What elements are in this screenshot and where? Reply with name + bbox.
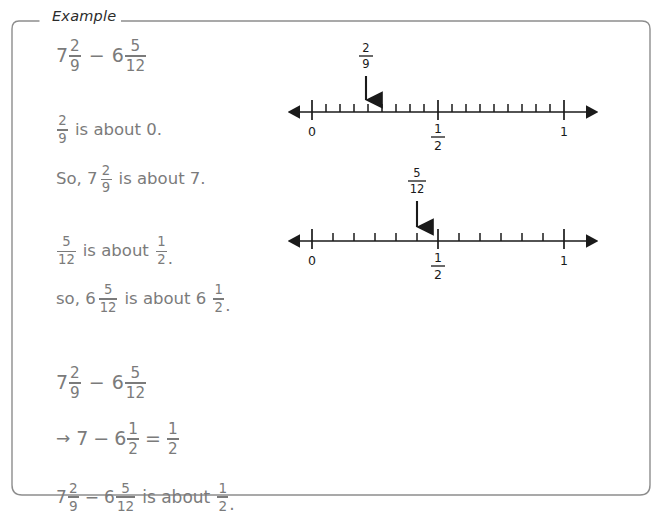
step-1-line-1: 2 9 is about 0. — [56, 114, 316, 146]
tick-label-one-half: 1 2 — [431, 121, 445, 153]
pointer-label-two-ninths: 2 9 — [359, 41, 373, 71]
numerator: 2 — [69, 365, 81, 381]
pointer-denominator: 12 — [410, 182, 425, 196]
fraction: 2 9 — [69, 365, 81, 401]
step-1-line-2-lead: So, 7 — [56, 171, 98, 188]
major-ticks — [312, 100, 564, 120]
solution-column: 7 2 9 − 6 5 12 2 9 is about 0. — [56, 38, 316, 513]
step-1-line-1-text: is about 0. — [75, 122, 162, 139]
denominator: 12 — [99, 301, 118, 315]
step-2-line-2-period: . — [225, 298, 230, 315]
whole: 6 — [112, 373, 124, 392]
step-1-line-2-text: is about 7. — [119, 171, 206, 188]
numerator: 5 — [130, 365, 142, 381]
step-3-line-1: 7 2 9 − 6 5 12 — [56, 365, 316, 401]
denominator: 12 — [125, 385, 146, 401]
denominator: 12 — [125, 58, 146, 74]
denominator: 2 — [217, 499, 228, 513]
whole: 6 — [114, 429, 126, 448]
step-3-line-2-whole-a: 7 — [76, 429, 88, 448]
problem-operator: − — [82, 46, 112, 65]
implies-arrow-icon: → — [56, 430, 76, 447]
step-2-line-2-result-fraction: 1 2 — [213, 283, 224, 315]
step-2-line-1-period: . — [168, 251, 173, 268]
step-1: 2 9 is about 0. So, 7 2 9 is about 7. — [56, 114, 316, 195]
step-3-line-3: 7 2 9 − 6 5 12 is about 1 2 — [56, 481, 316, 513]
fraction: 5 12 — [125, 365, 146, 401]
step-2-line-2-lead: so, 6 — [56, 291, 96, 308]
step-3-line-3-mixed-b: 6 5 12 — [104, 481, 136, 513]
whole: 7 — [56, 373, 68, 392]
denominator: 9 — [68, 499, 79, 513]
step-2-line-2: so, 6 5 12 is about 6 1 2 . — [56, 283, 316, 315]
numerator: 5 — [120, 481, 131, 495]
tick-label-numerator: 1 — [434, 121, 442, 136]
step-3: 7 2 9 − 6 5 12 → 7 − 6 — [56, 365, 316, 513]
denominator: 9 — [101, 181, 111, 195]
step-1-fraction: 2 9 — [57, 114, 68, 146]
denominator: 2 — [156, 253, 166, 267]
numerator: 1 — [156, 235, 166, 249]
problem-whole-b: 6 — [112, 46, 124, 65]
step-3-line-2-operator: − — [88, 429, 114, 448]
step-3-mixed-a: 7 2 9 — [56, 365, 82, 401]
pointer-label-five-twelfths: 5 12 — [408, 166, 426, 196]
tick-label-1: 1 — [560, 253, 568, 268]
pointer-denominator: 9 — [362, 57, 369, 71]
tick-label-0: 0 — [308, 124, 316, 139]
denominator: 9 — [69, 58, 81, 74]
step-3-line-2-equals: = — [140, 429, 166, 448]
denominator: 2 — [214, 301, 224, 315]
numerator: 2 — [68, 481, 79, 495]
numerator: 2 — [101, 164, 111, 178]
denominator: 12 — [116, 499, 135, 513]
numerator: 5 — [130, 38, 142, 54]
fraction: 1 2 — [127, 421, 139, 457]
problem-mixed-a: 7 2 9 — [56, 38, 82, 74]
numberline-two-ninths-svg: 2 9 — [288, 38, 598, 153]
numerator: 5 — [61, 235, 71, 249]
denominator: 12 — [57, 253, 76, 267]
tick-label-0: 0 — [308, 253, 316, 268]
step-2-line-2-text: is about 6 — [124, 291, 206, 308]
denominator: 9 — [57, 132, 67, 146]
denominator: 2 — [167, 441, 179, 457]
numberline-five-twelfths: 5 12 0 1 — [288, 165, 598, 283]
numerator: 1 — [127, 421, 139, 437]
tick-label-denominator: 2 — [434, 138, 442, 153]
problem-expression: 7 2 9 − 6 5 12 — [56, 38, 316, 74]
step-3-line-1-operator: − — [82, 373, 112, 392]
whole: 6 — [104, 489, 115, 506]
example-label: Example — [47, 8, 121, 24]
numberline-two-ninths: 2 9 — [288, 38, 598, 153]
numberline-five-twelfths-svg: 5 12 0 1 — [288, 165, 598, 283]
problem-fraction-b: 5 12 — [125, 38, 146, 74]
whole: 7 — [56, 489, 67, 506]
problem-whole-a: 7 — [56, 46, 68, 65]
tick-label-denominator: 2 — [434, 267, 442, 282]
step-3-line-3-text: is about — [142, 489, 210, 506]
step-1-line-2: So, 7 2 9 is about 7. — [56, 164, 316, 196]
major-ticks — [312, 229, 564, 249]
tick-label-one-half: 1 2 — [431, 250, 445, 282]
numerator: 5 — [103, 283, 113, 297]
step-2-line-1: 5 12 is about 1 2 . — [56, 235, 316, 267]
step-2: 5 12 is about 1 2 . so, 6 5 12 is about … — [56, 235, 316, 314]
step-2-line-1-text: is about — [83, 243, 149, 260]
step-1-line-2-fraction: 2 9 — [101, 164, 112, 196]
denominator: 2 — [127, 441, 139, 457]
step-3-line-2-mixed-b: 6 1 2 — [114, 421, 140, 457]
numerator: 1 — [167, 421, 179, 437]
fraction: 5 12 — [116, 481, 135, 513]
numerator: 2 — [57, 114, 67, 128]
numerator: 1 — [217, 481, 228, 495]
fraction: 2 9 — [68, 481, 79, 513]
step-3-line-3-operator: − — [80, 489, 104, 506]
step-3-line-2: → 7 − 6 1 2 = 1 2 — [56, 421, 316, 457]
problem-fraction-a: 2 9 — [69, 38, 81, 74]
tick-label-numerator: 1 — [434, 250, 442, 265]
step-2-result-fraction: 1 2 — [156, 235, 167, 267]
denominator: 9 — [69, 385, 81, 401]
step-3-line-2-result-fraction: 1 2 — [167, 421, 179, 457]
pointer-numerator: 2 — [362, 41, 369, 55]
